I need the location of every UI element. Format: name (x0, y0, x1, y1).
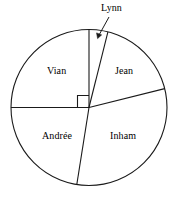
pie-chart-canvas (0, 0, 175, 199)
slice-label-vian: Vian (47, 66, 66, 76)
slice-label-andree: Andrée (42, 131, 72, 141)
slice-label-inham: Inham (110, 131, 136, 141)
slice-label-lynn: Lynn (101, 3, 122, 13)
pie-chart-figure: Vian Jean Andrée Inham Lynn (0, 0, 175, 199)
slice-label-jean: Jean (115, 66, 133, 76)
